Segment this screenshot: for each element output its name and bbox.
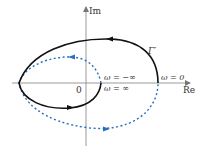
omega-neg-inf-label: ω = −∞ — [104, 74, 136, 82]
real-axis-label: Re — [183, 86, 195, 95]
solid-curve-arrow-bottom-icon — [67, 105, 74, 110]
origin-label: 0 — [76, 86, 82, 95]
omega-pos-inf-label: ω = ∞ — [104, 85, 129, 93]
imag-axis-label: Im — [89, 7, 101, 16]
omega-zero-label: ω = 0 — [161, 74, 184, 82]
dashed-curve-negative-frequency — [19, 57, 158, 129]
dashed-curve-arrow-bottom-icon — [103, 127, 110, 132]
curve-label-gamma: Γ′ — [148, 47, 156, 56]
nyquist-diagram: Im Re 0 Γ′ ω = 0 ω = −∞ ω = ∞ — [0, 0, 205, 152]
solid-curve-gamma — [19, 39, 158, 108]
dashed-curve-arrow-top-icon — [68, 55, 75, 60]
solid-curve-arrow-top-icon — [106, 37, 113, 42]
